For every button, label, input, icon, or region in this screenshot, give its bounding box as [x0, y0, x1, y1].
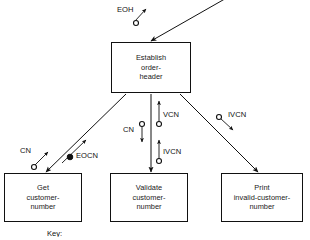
process-label-line: number	[30, 202, 55, 212]
process-label-line: order-	[141, 63, 161, 73]
process-box-validate-customer-number[interactable]: Validate customer- number	[110, 173, 188, 222]
process-label-line: Get	[37, 183, 49, 193]
marker-open-circle-cn-left	[32, 165, 37, 170]
data-flow-diagram: Establish order- header Get customer- nu…	[0, 0, 310, 240]
marker-open-circle-ivcn-mid	[157, 159, 162, 164]
flow-label-eoh: EOH	[117, 6, 133, 14]
flow-line-eoh	[151, 0, 230, 41]
process-label-line: customer-	[132, 193, 165, 203]
key-caption: Key:	[47, 230, 62, 237]
process-box-establish-order-header[interactable]: Establish order- header	[111, 42, 191, 93]
flow-label-cn-middle: CN	[123, 126, 134, 134]
flow-arrow-cn-left-annotation	[35, 152, 48, 165]
marker-open-circle-cn-mid	[140, 122, 145, 127]
flow-line-establish-to-print	[180, 94, 258, 172]
flow-label-ivcn-middle: IVCN	[163, 148, 181, 156]
flow-label-eocn: EOCN	[76, 152, 98, 160]
flow-label-ivcn-right: IVCN	[228, 111, 246, 119]
marker-open-circle-eoh	[134, 21, 139, 26]
marker-open-circle-vcn	[157, 122, 162, 127]
process-label-line: header	[139, 72, 162, 82]
process-label-line: Validate	[136, 183, 162, 193]
process-box-get-customer-number[interactable]: Get customer- number	[4, 173, 82, 222]
flow-arrow-eoh-annotation	[135, 9, 146, 21]
process-label-line: number	[249, 202, 274, 212]
process-label-line: Print	[254, 183, 269, 193]
flow-line-establish-to-get	[46, 94, 126, 172]
process-label-line: customer-	[26, 193, 59, 203]
marker-filled-circle-eocn	[67, 154, 73, 160]
process-label-line: invalid-customer-	[234, 193, 291, 203]
process-label-line: number	[136, 202, 161, 212]
flow-label-vcn: VCN	[163, 111, 179, 119]
marker-open-circle-ivcn-right	[217, 115, 222, 120]
flow-arrow-ivcn-right-annotation	[220, 118, 233, 130]
flow-label-cn-left: CN	[20, 147, 31, 155]
process-box-print-invalid-customer-number[interactable]: Print invalid-customer- number	[221, 173, 303, 222]
process-label-line: Establish	[136, 53, 166, 63]
